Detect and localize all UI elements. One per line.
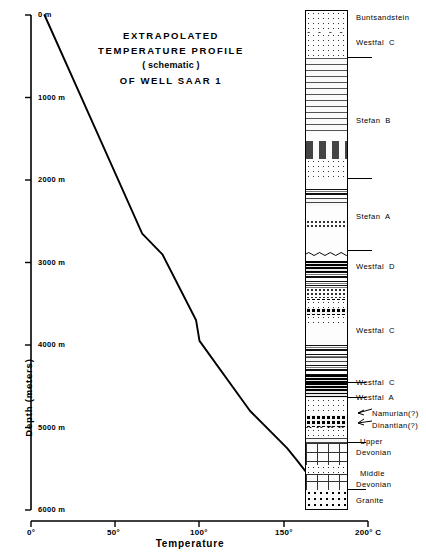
y-tick-label-0: 0 m — [38, 10, 52, 19]
strat-label-upper: Upper — [360, 437, 383, 447]
bed-stefan-b-c — [306, 141, 347, 159]
bed-upper-devonian-b — [306, 465, 347, 474]
strat-label-westfal-c-upper: Westfal C — [356, 38, 395, 48]
y-tick-label-5000: 5000 m — [38, 423, 65, 432]
x-tick-label-100: 100° — [190, 528, 208, 537]
bed-stefan-a-d — [306, 220, 347, 228]
leader-stefan-a — [348, 250, 372, 251]
y-axis-title: Depth (meters) — [23, 343, 34, 453]
strat-label-stefan-a: Stefan A — [356, 212, 390, 222]
x-tick-label-200: 200° C — [355, 528, 381, 537]
bed-westfal-c-lower — [306, 383, 347, 398]
strat-label-westfal-a: Westfal A — [356, 393, 394, 403]
bed-middle-devonian — [306, 481, 347, 490]
bed-stefan-b-b — [306, 133, 347, 141]
bed-dinantian — [306, 428, 347, 438]
strat-label-westfal-c-lower: Westfal C — [356, 378, 395, 388]
y-tick-label-6000: 6000 m — [38, 505, 65, 514]
leader-westfal-c-upper — [348, 57, 372, 58]
bed-stefan-a-coal — [306, 189, 347, 198]
x-tick-label-150: 150° — [275, 528, 293, 537]
temperature-curve — [45, 15, 332, 504]
bed-westfal-d-b — [306, 272, 347, 288]
strat-label-middle-devonian: Devonian — [356, 480, 391, 490]
bed-westfal-c-g — [306, 365, 347, 375]
strat-label-namurian: Namurian(?) — [372, 409, 419, 419]
x-tick-label-50: 50° — [107, 528, 120, 537]
leader-stefan-b — [348, 178, 372, 179]
bed-westfal-c-c — [306, 315, 347, 327]
arrow-leaders — [348, 406, 374, 428]
strat-label-granite: Granite — [356, 496, 384, 506]
temperature-profile-figure: EXTRAPOLATED TEMPERATURE PROFILE ( schem… — [0, 0, 426, 559]
x-axis-title: Temperature — [80, 538, 300, 549]
bed-upper-devonian-c — [306, 474, 347, 481]
bed-stefan-a-c — [306, 206, 347, 220]
strat-label-upper-devonian: Devonian — [356, 448, 391, 458]
x-tick-label-0: 0° — [27, 528, 35, 537]
bed-upper-devonian-a — [306, 443, 347, 465]
y-tick-label-2000: 2000 m — [38, 175, 65, 184]
bed-westfal-c-b — [306, 300, 347, 308]
strat-label-stefan-b: Stefan B — [356, 116, 391, 126]
bed-westfal-d-coal — [306, 261, 347, 272]
y-tick-label-1000: 1000 m — [38, 93, 65, 102]
strat-label-middle: Middle — [360, 469, 385, 479]
bed-stefan-a-e — [306, 228, 347, 250]
bed-westfal-c-e — [306, 345, 347, 357]
y-tick-label-4000: 4000 m — [38, 340, 65, 349]
bed-buntsandstein — [306, 11, 347, 33]
strat-label-westfal-d: Westfal D — [356, 262, 395, 272]
strat-label-westfal-c-main: Westfal C — [356, 326, 395, 336]
bed-westfal-c-f — [306, 357, 347, 365]
bed-westfal-c-d — [306, 327, 347, 345]
bed-westfal-c-congl — [306, 308, 347, 315]
bed-granite — [306, 490, 347, 510]
strat-label-buntsandstein: Buntsandstein — [356, 13, 409, 23]
strat-label-dinantian: Dinantian(?) — [372, 421, 418, 431]
bed-stefan-a-a — [306, 179, 347, 189]
stratigraphic-column — [305, 10, 348, 510]
bed-westfal-a — [306, 398, 347, 415]
bed-stefan-a-b — [306, 198, 347, 206]
bed-stefan-b-a — [306, 58, 347, 133]
bed-stefan-b-d — [306, 159, 347, 179]
bed-westfal-c-h — [306, 375, 347, 383]
y-tick-label-3000: 3000 m — [38, 258, 65, 267]
